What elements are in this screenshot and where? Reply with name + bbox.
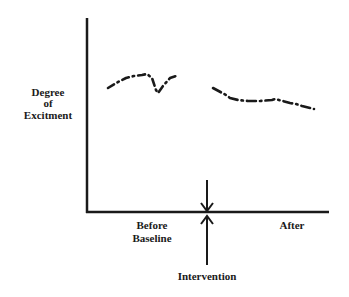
intervention-label: Intervention	[178, 270, 237, 282]
baseline-series-line	[108, 74, 179, 93]
after-label: After	[279, 219, 304, 231]
y-axis-label-line-3: Excitment	[24, 109, 73, 121]
before-label-line-2: Baseline	[132, 232, 171, 244]
intervention-diagram: Degree of Excitment Before Baseline Afte…	[0, 0, 349, 297]
after-series-line	[213, 88, 314, 109]
intervention-up-arrow-icon	[201, 216, 213, 265]
y-axis-label-line-2: of	[43, 97, 53, 109]
intervention-down-arrow-icon	[201, 180, 213, 211]
before-label-line-1: Before	[137, 219, 168, 231]
